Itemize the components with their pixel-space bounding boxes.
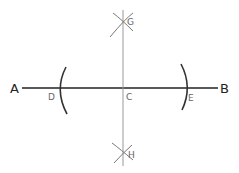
label-d: D bbox=[48, 92, 55, 102]
label-c: C bbox=[126, 92, 132, 102]
label-h: H bbox=[128, 150, 135, 160]
diagram-canvas: A B C D E G H bbox=[0, 0, 239, 173]
label-e: E bbox=[188, 93, 194, 103]
construction-diagram: A B C D E G H bbox=[0, 0, 239, 173]
label-g: G bbox=[127, 17, 134, 27]
label-a: A bbox=[10, 81, 19, 96]
arc-e bbox=[181, 64, 187, 110]
arc-d bbox=[60, 67, 67, 114]
label-b: B bbox=[220, 81, 229, 96]
